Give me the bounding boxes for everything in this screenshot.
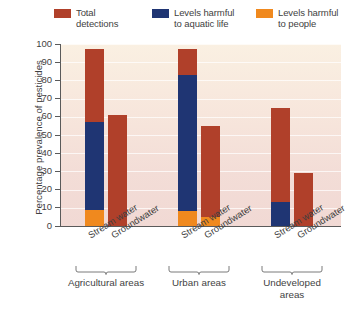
y-tick-label: 10 <box>26 202 52 212</box>
legend-swatch-aquatic-life <box>152 9 169 18</box>
y-tick-label: 0 <box>26 221 52 231</box>
bar-urban-areas-stream-water <box>178 49 197 226</box>
y-tick-label: 50 <box>26 130 52 140</box>
group-brace <box>168 266 230 275</box>
bar-agricultural-areas-stream-water <box>85 49 104 226</box>
chart-legend: Total detections Levels harmful to aquat… <box>54 7 350 39</box>
legend-swatch-total-detections <box>54 9 71 18</box>
legend-item-people: Levels harmful to people <box>256 7 350 39</box>
y-tick-label: 70 <box>26 93 52 103</box>
bar-undeveloped-areas-stream-water <box>271 108 290 226</box>
group-label-undeveloped-areas: Undeveloped areas <box>237 277 347 300</box>
group-brace <box>75 266 137 275</box>
gridline <box>61 44 341 45</box>
y-tick-label: 90 <box>26 57 52 67</box>
y-tick-label: 40 <box>26 148 52 158</box>
legend-swatch-people <box>256 9 273 18</box>
plot-area <box>61 44 341 226</box>
segment-aquatic-life <box>178 75 197 226</box>
legend-item-aquatic-life: Levels harmful to aquatic life <box>152 7 256 39</box>
y-tick-label: 30 <box>26 166 52 176</box>
legend-label-aquatic-life: Levels harmful to aquatic life <box>174 7 234 29</box>
y-tick-label: 60 <box>26 111 52 121</box>
pesticide-prevalence-chart: Total detections Levels harmful to aquat… <box>0 0 352 310</box>
legend-item-total-detections: Total detections <box>54 7 152 39</box>
group-brace <box>261 266 323 275</box>
legend-label-people: Levels harmful to people <box>278 7 338 29</box>
y-tick-label: 100 <box>26 39 52 49</box>
y-tick-label: 80 <box>26 75 52 85</box>
legend-label-total-detections: Total detections <box>76 7 118 29</box>
y-tick-label: 20 <box>26 184 52 194</box>
